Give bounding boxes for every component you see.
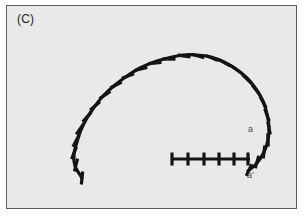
panel-label: (C): [17, 12, 34, 26]
arc-tick-1: [81, 172, 82, 185]
arc-tick-12: [149, 62, 162, 63]
arc-tick-22: [265, 109, 269, 121]
arc-tick-16: [206, 56, 218, 61]
arc-tick-18: [232, 66, 243, 74]
label-a-prime: a': [247, 170, 254, 180]
label-a: a: [248, 124, 253, 134]
figure-panel: (C) a a': [6, 5, 297, 209]
arc-tick-14: [178, 55, 191, 57]
arc-tick-25: [263, 146, 265, 159]
arc-tick-7: [90, 102, 100, 111]
straight-fiber-group: [171, 153, 250, 166]
figure-root: (C) a a': [0, 0, 303, 217]
arc-tick-3: [72, 147, 77, 159]
arc-tick-11: [135, 68, 148, 71]
arc-tick-26: [255, 156, 259, 168]
arc-tick-10: [122, 74, 134, 78]
